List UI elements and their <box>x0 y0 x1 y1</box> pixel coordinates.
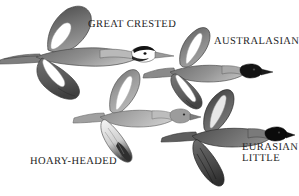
label-eurasian-little-line2: LITTLE <box>242 153 298 164</box>
bill <box>261 69 273 75</box>
label-eurasian-little-line1: EURASIAN <box>242 142 298 153</box>
head <box>240 64 262 78</box>
eye <box>253 69 255 71</box>
bill <box>286 132 295 138</box>
trailing-feet <box>0 54 42 64</box>
label-australasian: AUSTRALASIAN <box>214 36 299 47</box>
grebe-flight-plate: GREAT CRESTED AUSTRALASIAN HOARY-HEADED … <box>0 0 299 196</box>
label-eurasian-little: EURASIAN LITTLE <box>242 142 298 165</box>
bird-eurasian-little <box>160 88 295 193</box>
label-great-crested: GREAT CRESTED <box>88 19 176 30</box>
head <box>265 127 287 141</box>
eye <box>278 132 280 134</box>
label-hoary-headed: HOARY-HEADED <box>30 156 117 167</box>
